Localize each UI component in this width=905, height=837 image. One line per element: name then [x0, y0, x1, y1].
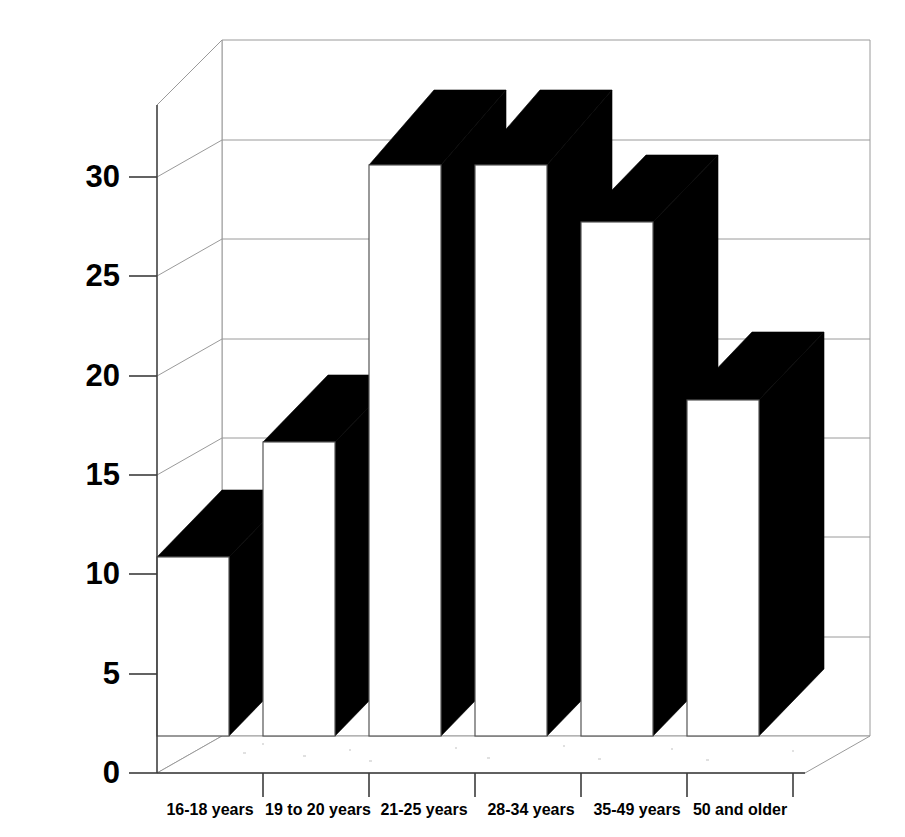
- bar-front-face: [475, 165, 547, 736]
- x-category-label-16-18-years: 16-18 years: [166, 801, 253, 818]
- y-tick-label-15: 15: [86, 457, 120, 492]
- bar-side-face: [759, 332, 824, 736]
- chart-canvas: 30 25 20 15 10 5 0 16-18 years 19 to 20 …: [0, 0, 905, 837]
- x-category-label-50-and-older: 50 and older: [693, 801, 787, 818]
- bar-front-face: [581, 222, 653, 736]
- bar-front-face: [263, 442, 335, 736]
- bar-front-face: [157, 557, 229, 736]
- bar-chart-figure: 30 25 20 15 10 5 0 16-18 years 19 to 20 …: [0, 0, 905, 837]
- x-category-label-21-25-years: 21-25 years: [380, 801, 467, 818]
- x-category-label-35-49-years: 35-49 years: [593, 801, 680, 818]
- y-tick-label-5: 5: [103, 656, 120, 691]
- bar-50-and-older[interactable]: [687, 332, 824, 736]
- y-tick-label-30: 30: [86, 159, 120, 194]
- x-category-label-19-to-20-years: 19 to 20 years: [265, 801, 371, 818]
- y-tick-label-0: 0: [103, 755, 120, 790]
- x-axis: [157, 773, 805, 797]
- y-tick-label-20: 20: [86, 358, 120, 393]
- y-axis: [129, 105, 157, 773]
- y-tick-label-25: 25: [86, 258, 120, 293]
- y-axis-tick-labels: 30 25 20 15 10 5 0: [86, 159, 120, 790]
- bar-front-face: [687, 400, 759, 736]
- bar-front-face: [369, 165, 441, 736]
- floor-plane: [157, 736, 870, 773]
- y-tick-label-10: 10: [86, 556, 120, 591]
- x-axis-category-labels: 16-18 years 19 to 20 years 21-25 years 2…: [166, 801, 787, 818]
- x-category-label-28-34-years: 28-34 years: [487, 801, 574, 818]
